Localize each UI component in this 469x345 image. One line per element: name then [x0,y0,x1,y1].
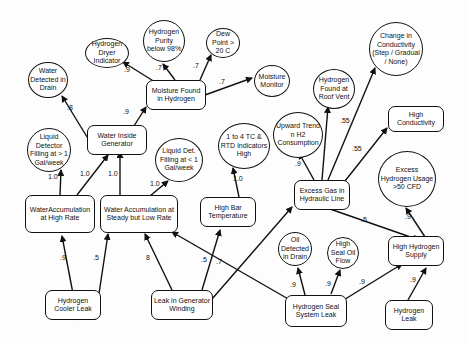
node-high-seal-oil-flow: High Seal Oil Flow [327,237,359,269]
edge-seal-to-sealoil [331,270,340,294]
edge-label: .9 [123,108,129,116]
edge-label: 8 [146,254,150,262]
node-label: Water Inside Generator [89,132,145,149]
edge-moisture-to-purity [163,64,175,80]
node-dew-point: Dew Point > 20 C [206,28,240,58]
node-label: High Seal Oil Flow [329,240,357,266]
node-label: Leak in Generator Winding [153,297,211,314]
edge-label: .7 [193,62,199,70]
node-high-bar-temp: High Bar Temperature [200,197,256,227]
node-hydrogen-dryer-indicator: Hydrogen Dryer Indicator [85,38,129,68]
node-liquid-detector-gt1: Liquid Detector Filling at > 1 Gal/week [27,128,71,172]
node-label: Change in Conductivity (Step / Gradual /… [371,32,421,66]
node-label: Liquid Detector Filling at > 1 Gal/week [29,133,69,167]
node-water-inside-generator: Water Inside Generator [87,125,147,155]
node-hydrogen-seal-leak: Hydrogen Seal System Leak [285,295,347,327]
edge-label: .9 [295,160,301,168]
edge-label: .9 [405,213,411,221]
node-label: Hydrogen Seal System Leak [287,303,345,320]
edge-label: .9 [325,280,331,288]
edge-label: 1.0 [150,180,160,188]
edge-label: .5 [361,216,367,224]
edge-winding-to-accumlow [145,234,172,290]
node-tc-rtd-indicators: 1 to 4 TC & RTD Indicators High [218,123,270,169]
edge-seal-to-oildrain [298,268,305,295]
edge-label: .9 [410,276,416,284]
node-label: Liquid Det. Filling at < 1 Gal/week [157,147,201,173]
edge-label: .7 [156,64,162,72]
edge-label: .7 [216,258,222,266]
node-label: Hydrogen Purity below 98% [145,28,183,54]
edge-label: .5 [93,254,99,262]
node-high-hydrogen-supply: High Hydrogen Supply [388,236,444,266]
edge-label: .9 [290,281,296,289]
node-upward-trend: Upward Trend n H2 Consumption [273,112,323,158]
edge-moisture-to-dewpoint [200,55,211,80]
edge-moisture-to-monitor [205,78,252,95]
node-label: Dew Point > 20 C [208,30,238,56]
node-label: WaterAccumulation at High Rate [27,206,93,223]
node-hydrogen-roof-vent: Hydrogen Found at Roof Vent [313,69,355,109]
edge-label: .7 [219,78,225,86]
edge-label: 1.0 [108,170,118,178]
node-label: Hydrogen Cooler Leak [47,297,99,314]
node-label: Excess Hydrogen Usage >50 CFD [380,166,434,192]
edge-label: .9 [359,278,365,286]
node-excess-gas: Excess Gas in Hydraulic Line [294,180,350,210]
edge-label: .55 [340,117,350,125]
node-label: Moisture Monitor [256,73,288,90]
node-label: Moisture Found in Hydrogen [148,87,204,104]
node-label: Hydrogen Dryer Indicator [87,40,127,66]
edge-label: 1.0 [80,170,90,178]
node-label: High Bar Temperature [202,204,254,221]
edge-excessgas-to-roofvent [322,107,328,180]
node-moisture-monitor: Moisture Monitor [254,65,290,97]
edge-label: .9 [124,66,130,74]
node-conductivity-change: Change in Conductivity (Step / Gradual /… [369,22,423,76]
node-label: Excess Gas in Hydraulic Line [296,187,348,204]
node-label: Upward Trend n H2 Consumption [275,122,321,148]
node-label: Oil Detected in Drain [280,236,310,262]
node-label: 1 to 4 TC & RTD Indicators High [220,133,268,159]
node-water-detected-drain: Water Detected in Drain [28,62,68,98]
node-moisture-found: Moisture Found in Hydrogen [146,80,206,110]
node-high-conductivity: High Conductivity [388,106,444,132]
node-generator-winding-leak: Leak in Generator Winding [151,290,213,320]
node-label: High Hydrogen Supply [390,243,442,260]
node-excess-hydrogen-usage: Excess Hydrogen Usage >50 CFD [378,151,436,207]
node-oil-detected-drain: Oil Detected in Drain [278,232,312,266]
edge-label: 1.0 [48,173,58,181]
edge-label: .55 [352,145,362,153]
node-label: Hydrogen Found at Roof Vent [315,76,353,102]
node-label: Water Accumulation at Steady but Low Rat… [102,206,176,223]
node-hydrogen-cooler-leak: Hydrogen Cooler Leak [45,290,101,320]
edge-label: .9 [60,254,66,262]
edge-seal-to-highsupply [342,264,402,301]
edge-label: .5 [201,256,207,264]
edge-label: 1.0 [233,175,243,183]
node-label: Water Detected in Drain [30,67,66,93]
node-hydrogen-purity: Hydrogen Purity below 98% [143,20,185,62]
node-label: High Conductivity [390,111,442,128]
node-liquid-det-lt1: Liquid Det. Filling at < 1 Gal/week [155,138,203,182]
node-water-accum-low: Water Accumulation at Steady but Low Rat… [100,195,178,233]
edge-label: .8 [67,104,73,112]
node-hydrogen-leak: Hydrogen Leak [385,300,433,330]
node-label: Hydrogen Leak [387,307,431,324]
edge-accumhigh-to-liquidgt1 [60,170,61,195]
edge-h2leak-to-highsupply [408,268,426,300]
bayesian-fault-diagram: Hydrogen Dryer Indicator Hydrogen Purity… [0,0,469,345]
node-water-accum-high: WaterAccumulation at High Rate [25,195,95,233]
